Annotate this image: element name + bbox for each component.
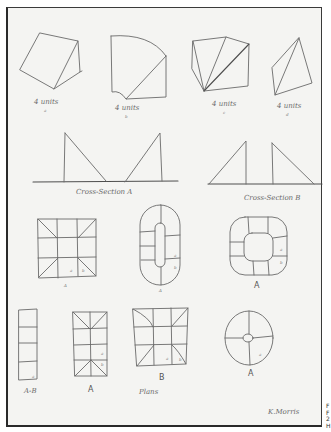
label-b-sub: b (125, 114, 128, 119)
plans-caption: Plans (138, 388, 159, 396)
plan-square-mark-a: a (70, 268, 73, 273)
label-a: 4 units (33, 98, 59, 106)
label-d: 4 units (276, 102, 302, 110)
shape-c (192, 37, 249, 91)
plan-column (19, 309, 37, 380)
plan-rsq-label: A (254, 281, 260, 290)
plan-oval-label: A (158, 288, 162, 293)
cross-section-b (208, 141, 322, 184)
plan-column-label: A-B (23, 387, 37, 395)
label-c-sub: c (223, 110, 226, 115)
signature: K.Morris (267, 408, 300, 416)
plan-rounded-square-ring (230, 217, 287, 275)
shape-a (20, 33, 82, 89)
plan-circle-label: A (248, 369, 254, 378)
plan-square-mark-b: b (82, 268, 85, 273)
cross-section-b-label: Cross-Section B (244, 194, 300, 202)
plan-column-mark-a: a (32, 374, 35, 379)
plan-tall-mark-b: b (101, 362, 104, 367)
cross-section-a (33, 133, 178, 182)
plan-rsq-mark-a: a (280, 247, 283, 252)
plan-tall-mark-a: a (101, 351, 104, 356)
plan-sqb-mark-b: b (179, 357, 182, 362)
side-caption-line: H (326, 423, 331, 430)
shape-b (111, 36, 166, 99)
plan-circle-mark-a: a (259, 352, 262, 357)
plan-oval-mark-a: a (174, 253, 177, 258)
plan-oval-mark-b: b (174, 265, 177, 270)
shape-d (272, 38, 312, 95)
plan-sqb-label: B (159, 373, 165, 382)
plan-tall-label: A (88, 385, 94, 394)
cross-section-a-label: Cross-Section A (76, 188, 132, 196)
sketch-drawing: 4 units a 4 units b 4 units c 4 units d … (0, 0, 331, 432)
label-c: 4 units (211, 100, 237, 108)
plan-rsq-mark-b: b (280, 260, 283, 265)
plan-square-label: A (63, 283, 67, 288)
plan-circle (225, 311, 273, 365)
label-d-sub: d (286, 112, 289, 117)
label-b: 4 units (114, 104, 140, 112)
side-caption: F F 2 H (326, 403, 331, 429)
plan-square-grid (38, 219, 96, 278)
plan-sqb-mark-a: a (166, 356, 169, 361)
label-a-sub: a (44, 108, 47, 113)
plan-oval-ring (140, 205, 180, 285)
